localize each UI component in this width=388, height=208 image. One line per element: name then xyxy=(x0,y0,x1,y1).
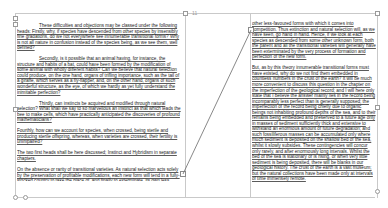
text-thread-connector xyxy=(0,0,388,208)
